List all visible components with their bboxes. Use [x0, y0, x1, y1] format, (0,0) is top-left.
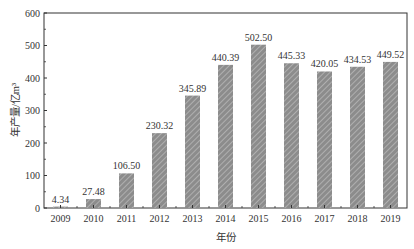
- x-tick-label: 2015: [249, 213, 269, 224]
- bar-2011: [119, 173, 134, 208]
- y-tick-label: 200: [25, 138, 40, 149]
- y-tick-label: 100: [25, 170, 40, 181]
- y-axis-title: 年产量/亿m³: [9, 83, 21, 137]
- bar-2012: [152, 133, 167, 208]
- x-axis-title: 年份: [216, 231, 237, 243]
- x-tick-label: 2011: [117, 213, 137, 224]
- y-tick-label: 500: [25, 40, 40, 51]
- y-tick-label: 400: [25, 73, 40, 84]
- x-tick-label: 2009: [51, 213, 71, 224]
- x-tick-label: 2010: [84, 213, 104, 224]
- value-label: 345.89: [179, 83, 207, 94]
- value-label: 27.48: [82, 186, 105, 197]
- value-label: 434.53: [344, 54, 372, 65]
- value-label: 420.05: [311, 58, 339, 69]
- value-label: 230.32: [146, 120, 174, 131]
- x-tick-label: 2017: [315, 213, 335, 224]
- value-label: 445.33: [278, 50, 306, 61]
- y-tick-label: 300: [25, 105, 40, 116]
- value-label: 502.50: [245, 32, 273, 43]
- x-tick-label: 2016: [282, 213, 302, 224]
- y-tick-label: 0: [35, 203, 40, 214]
- x-tick-label: 2014: [216, 213, 236, 224]
- plot-area: 01002003004005006004.34200927.482010106.…: [25, 8, 407, 225]
- bar-2017: [317, 71, 332, 208]
- x-tick-label: 2018: [348, 213, 368, 224]
- bar-2013: [185, 96, 200, 208]
- x-tick-label: 2013: [183, 213, 203, 224]
- value-label: 449.52: [377, 49, 405, 60]
- x-tick-label: 2012: [150, 213, 170, 224]
- bar-2019: [383, 62, 398, 208]
- bar-2016: [284, 63, 299, 208]
- value-label: 4.34: [52, 194, 70, 205]
- value-label: 440.39: [212, 52, 240, 63]
- bar-2018: [350, 67, 365, 208]
- value-label: 106.50: [113, 160, 141, 171]
- bar-2014: [218, 65, 233, 208]
- bar-2015: [251, 45, 266, 208]
- x-tick-label: 2019: [381, 213, 401, 224]
- y-tick-label: 600: [25, 8, 40, 19]
- bar-chart: 01002003004005006004.34200927.482010106.…: [0, 0, 414, 249]
